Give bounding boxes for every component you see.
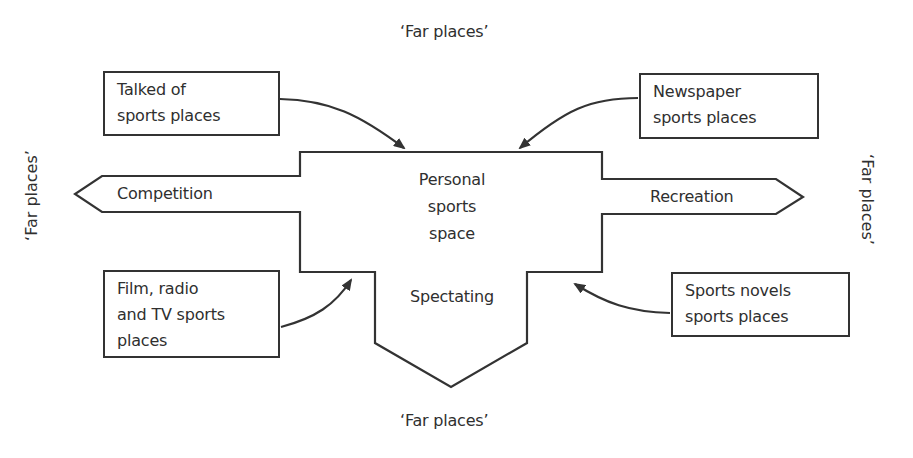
arrow-newspaper <box>520 98 638 148</box>
arrow-talked-of <box>280 99 404 148</box>
far-places-left: ‘Far places’ <box>22 150 41 241</box>
far-places-bottom: ‘Far places’ <box>400 408 488 434</box>
box-talked-of-text: Talked of sports places <box>117 77 220 129</box>
box-sports-novels-text: Sports novels sports places <box>685 278 791 330</box>
box-film-radio-tv-text: Film, radio and TV sports places <box>117 276 225 354</box>
far-places-top: ‘Far places’ <box>400 19 488 45</box>
center-label-line2: sports <box>412 194 492 220</box>
box-newspaper-sports-places: Newspaper sports places <box>639 73 819 139</box>
arrow-film-radio-tv <box>281 280 351 327</box>
spectating-label: Spectating <box>400 284 504 310</box>
recreation-label: Recreation <box>650 184 734 210</box>
box-sports-novels-sports-places: Sports novels sports places <box>671 272 850 337</box>
center-label-line3: space <box>412 221 492 247</box>
far-places-right: ‘Far places’ <box>858 154 877 245</box>
center-label-line1: Personal <box>412 167 492 193</box>
box-film-radio-tv-sports-places: Film, radio and TV sports places <box>103 270 280 358</box>
box-talked-of-sports-places: Talked of sports places <box>103 71 280 136</box>
arrow-sports-novels <box>575 284 670 313</box>
competition-label: Competition <box>117 181 213 207</box>
box-newspaper-text: Newspaper sports places <box>653 79 756 131</box>
